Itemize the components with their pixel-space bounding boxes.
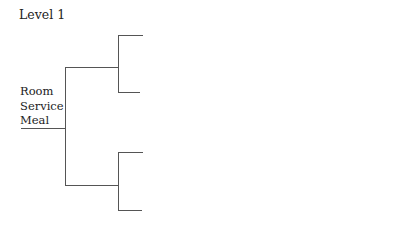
root-node-label: Room Service Meal: [20, 84, 64, 128]
branch-1-trunk: [118, 35, 119, 93]
root-label-line-1: Room: [20, 84, 64, 99]
level-title: Level 1: [19, 7, 65, 22]
branch-2-trunk: [118, 152, 119, 210]
root-label-line-3: Meal: [20, 113, 64, 128]
leaf-2-1-line: [118, 152, 143, 153]
branch-2-connector: [65, 185, 118, 186]
leaf-2-2-line: [118, 210, 142, 211]
branch-1-connector: [65, 67, 118, 68]
leaf-1-1-line: [118, 35, 143, 36]
root-label-line-2: Service: [20, 99, 64, 114]
leaf-1-2-line: [118, 92, 140, 93]
level-1-trunk: [65, 67, 66, 186]
root-connector: [21, 128, 65, 129]
